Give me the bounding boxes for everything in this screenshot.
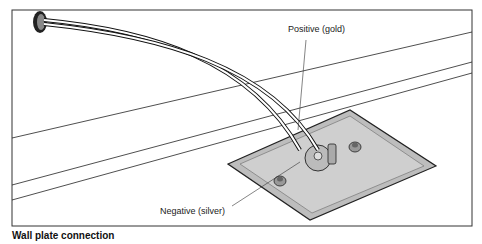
figure-caption: Wall plate connection (12, 230, 114, 241)
screw-post-icon (349, 142, 361, 152)
negative-label: Negative (silver) (160, 206, 225, 216)
frame-border (12, 10, 472, 226)
positive-label: Positive (gold) (288, 24, 345, 34)
wall-plate (228, 110, 436, 220)
positive-leader-line (298, 40, 306, 130)
speaker-cables (44, 20, 318, 150)
